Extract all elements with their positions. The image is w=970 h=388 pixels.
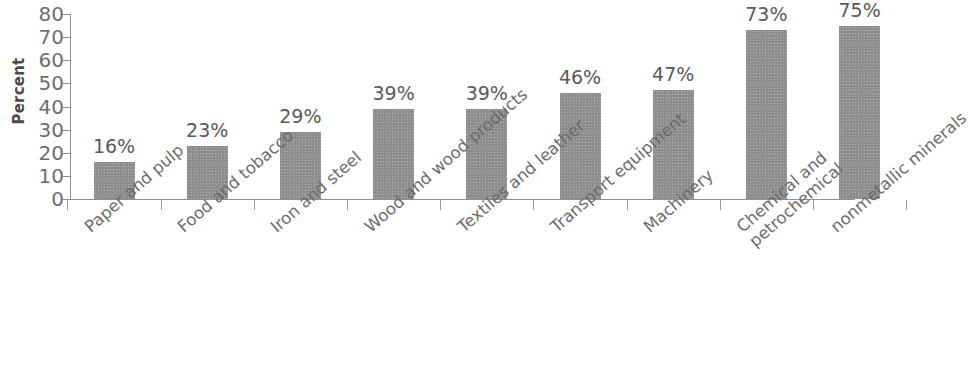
x-axis-category-label: Machinery [640,166,717,237]
x-axis-category-label-line: nonmetallic minerals [827,108,970,236]
x-axis-category-label-line: Wood and wood products [361,85,532,237]
x-axis-category-label-line: Paper and pulp [81,140,188,236]
x-axis-category-label: Chemical andpetrochemical [733,145,847,252]
x-axis-category-label-line: Iron and steel [267,148,365,237]
x-axis-category-label: Paper and pulp [81,140,188,236]
x-axis-category-label: Wood and wood products [361,85,532,237]
x-axis-category-label: Iron and steel [267,148,365,237]
x-axis-category-label-line: Machinery [640,166,717,237]
x-axis-category-label: nonmetallic minerals [827,108,970,236]
x-axis-tick-mark [906,200,907,210]
